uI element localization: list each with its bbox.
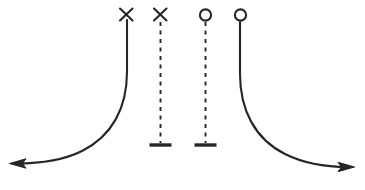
diagram-background [0, 0, 365, 190]
diagram-canvas [0, 0, 365, 190]
field-line-diagram [0, 0, 365, 190]
